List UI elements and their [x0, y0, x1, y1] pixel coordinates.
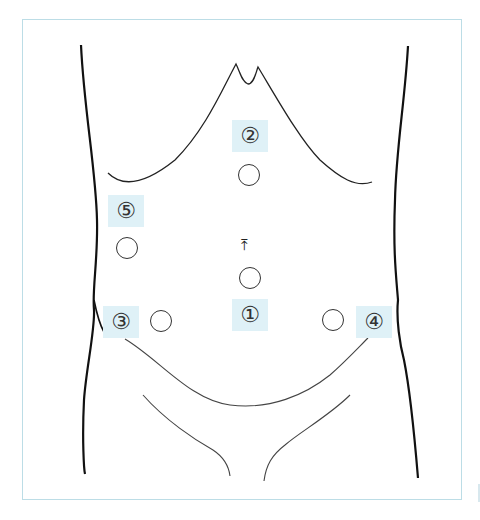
port-circle-1: [239, 267, 261, 289]
left-groin-line: [143, 395, 230, 476]
right-flank-line: [394, 46, 418, 478]
port-circle-2: [238, 164, 260, 186]
torso-outline: [0, 0, 480, 520]
port-circle-4: [322, 309, 344, 331]
right-groin-line: [264, 395, 350, 481]
port-label-1: ①: [232, 299, 268, 331]
lower-abdomen-line: [125, 338, 368, 406]
port-label-5: ⑤: [108, 195, 144, 227]
left-flank-line: [81, 45, 97, 474]
navel-icon: ⤒: [241, 238, 248, 253]
port-label-4: ④: [356, 306, 392, 338]
port-label-2: ②: [232, 120, 268, 152]
port-circle-5: [116, 237, 138, 259]
port-circle-3: [150, 310, 172, 332]
port-label-3: ③: [103, 306, 139, 338]
